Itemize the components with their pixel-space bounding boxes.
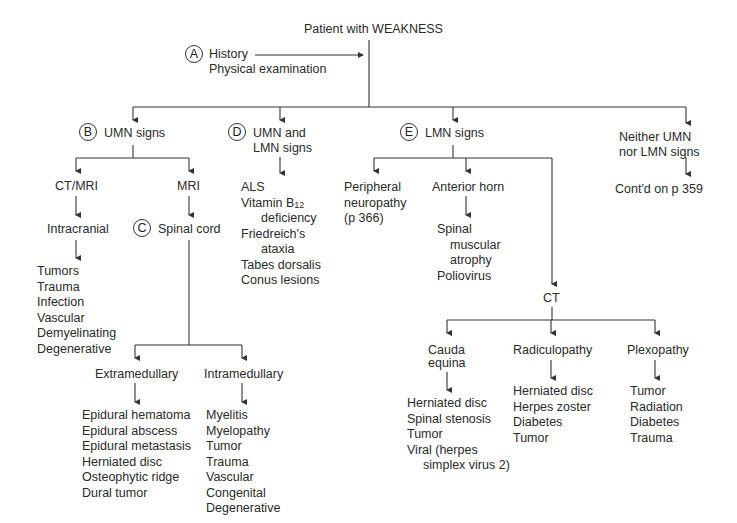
list-item: Herniated disc <box>82 455 191 471</box>
list-item: Epidural metastasis <box>82 439 191 455</box>
list-item: Herpes zoster <box>513 400 593 416</box>
umn-lmn-label-line1: UMN and <box>253 126 306 142</box>
cauda-equina-causes-list: Herniated disc Spinal stenosis Tumor Vir… <box>407 396 510 474</box>
flowchart-title: Patient with WEAKNESS <box>304 22 443 38</box>
list-item: Trauma <box>206 455 280 471</box>
list-item: Myelitis <box>206 408 280 424</box>
list-item: Herniated disc <box>407 396 510 412</box>
list-item: Vascular <box>206 470 280 486</box>
link-continued-page-359[interactable]: Cont'd on p 359 <box>615 182 703 198</box>
step-b-badge: B <box>79 123 97 141</box>
mri-label: MRI <box>177 179 200 195</box>
step-a-badge: A <box>185 45 203 63</box>
radiculopathy-causes-list: Herniated disc Herpes zoster Diabetes Tu… <box>513 384 593 446</box>
list-item: Infection <box>37 295 116 311</box>
list-item: Conus lesions <box>241 273 321 289</box>
radiculopathy-label: Radiculopathy <box>513 343 592 359</box>
list-item: Viral (herpes <box>407 443 510 459</box>
step-a-physical-exam: Physical examination <box>209 62 326 78</box>
list-item: Tumor <box>630 384 683 400</box>
umn-signs-label: UMN signs <box>104 126 165 142</box>
step-a-history: History <box>209 47 248 63</box>
list-item: Tumor <box>513 431 593 447</box>
umn-lmn-label-line2: LMN signs <box>253 141 312 157</box>
list-item: Spinal stenosis <box>407 412 510 428</box>
umn-lmn-causes-list: ALS Vitamin B12 deficiency Friedreich's … <box>241 180 321 289</box>
list-item: simplex virus 2) <box>407 458 510 474</box>
extramedullary-causes-list: Epidural hematoma Epidural abscess Epidu… <box>82 408 191 501</box>
list-item: Vascular <box>37 311 116 327</box>
list-item: Friedreich's <box>241 227 321 243</box>
list-item: neuropathy <box>344 196 407 212</box>
plexopathy-causes-list: Tumor Radiation Diabetes Trauma <box>630 384 683 446</box>
extramedullary-label: Extramedullary <box>95 367 178 383</box>
list-item: Trauma <box>37 280 116 296</box>
list-item: Tabes dorsalis <box>241 258 321 274</box>
list-item: Diabetes <box>630 415 683 431</box>
list-item: Radiation <box>630 400 683 416</box>
list-item: Peripheral <box>344 180 407 196</box>
step-e-badge: E <box>400 123 418 141</box>
list-item: Poliovirus <box>437 269 501 285</box>
intramedullary-label: Intramedullary <box>204 367 283 383</box>
neither-label-line2: nor LMN signs <box>619 145 700 161</box>
list-item: muscular <box>437 238 501 254</box>
list-item: Tumor <box>407 427 510 443</box>
list-item: Trauma <box>630 431 683 447</box>
step-d-badge: D <box>228 123 246 141</box>
list-item: Degenerative <box>206 501 280 517</box>
list-item: Osteophytic ridge <box>82 470 191 486</box>
list-item: Epidural abscess <box>82 424 191 440</box>
list-item: Demyelinating <box>37 326 116 342</box>
plexopathy-label: Plexopathy <box>627 343 689 359</box>
list-item: Spinal <box>437 222 501 238</box>
list-item: Dural tumor <box>82 486 191 502</box>
cauda-equina-label-line2: equina <box>428 356 466 372</box>
intracranial-label: Intracranial <box>47 222 109 238</box>
step-c-badge: C <box>133 219 151 237</box>
list-item: Diabetes <box>513 415 593 431</box>
list-item: Herniated disc <box>513 384 593 400</box>
intracranial-causes-list: Tumors Trauma Infection Vascular Demyeli… <box>37 264 116 357</box>
intramedullary-causes-list: Myelitis Myelopathy Tumor Trauma Vascula… <box>206 408 280 517</box>
list-item: Degenerative <box>37 342 116 358</box>
list-item: Myelopathy <box>206 424 280 440</box>
neither-label-line1: Neither UMN <box>619 130 691 146</box>
list-item: Vitamin B12 <box>241 196 321 212</box>
list-item: Congenital <box>206 486 280 502</box>
list-item: ataxia <box>241 242 321 258</box>
link-page-366[interactable]: (p 366) <box>344 211 407 227</box>
spinal-cord-label: Spinal cord <box>158 222 221 238</box>
list-item: atrophy <box>437 253 501 269</box>
list-item: ALS <box>241 180 321 196</box>
peripheral-neuropathy: Peripheral neuropathy (p 366) <box>344 180 407 227</box>
list-item: Tumor <box>206 439 280 455</box>
ct-mri-label: CT/MRI <box>55 179 98 195</box>
list-item: Tumors <box>37 264 116 280</box>
anterior-horn-causes-list: Spinal muscular atrophy Poliovirus <box>437 222 501 284</box>
ct-label: CT <box>543 291 560 307</box>
list-item: Epidural hematoma <box>82 408 191 424</box>
anterior-horn-label: Anterior horn <box>432 180 504 196</box>
list-item: deficiency <box>241 211 321 227</box>
lmn-signs-label: LMN signs <box>425 126 484 142</box>
